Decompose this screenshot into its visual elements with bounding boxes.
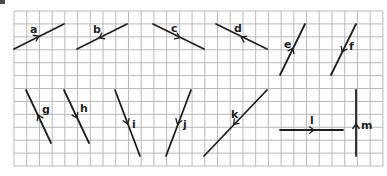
segment-g: g xyxy=(26,90,51,143)
segment-h: h xyxy=(64,90,89,143)
segment-label: e xyxy=(284,38,291,51)
segment-k: k xyxy=(204,90,267,156)
vector-grid-diagram: abcdefghijklm xyxy=(0,0,387,176)
segment-label: d xyxy=(234,22,242,35)
segment-b: b xyxy=(77,23,127,49)
segment-label: a xyxy=(30,23,37,36)
square-grid xyxy=(14,11,383,166)
segment-label: m xyxy=(361,119,372,132)
corner-marker xyxy=(0,0,5,4)
segment-label: c xyxy=(171,22,178,35)
segment-label: b xyxy=(93,23,101,36)
segment-j: j xyxy=(166,90,191,156)
segment-label: i xyxy=(132,118,136,131)
segment-i: i xyxy=(115,90,140,156)
segment-d: d xyxy=(216,22,267,49)
segment-m: m xyxy=(353,90,373,156)
segment-l: l xyxy=(280,114,343,133)
segment-label: l xyxy=(310,114,314,127)
segment-c: c xyxy=(153,22,204,49)
line-segment xyxy=(204,90,267,156)
segment-label: h xyxy=(80,102,88,115)
segment-label: g xyxy=(42,103,50,116)
segment-label: j xyxy=(182,118,187,131)
segment-label: f xyxy=(349,40,354,53)
segment-label: k xyxy=(231,108,239,121)
